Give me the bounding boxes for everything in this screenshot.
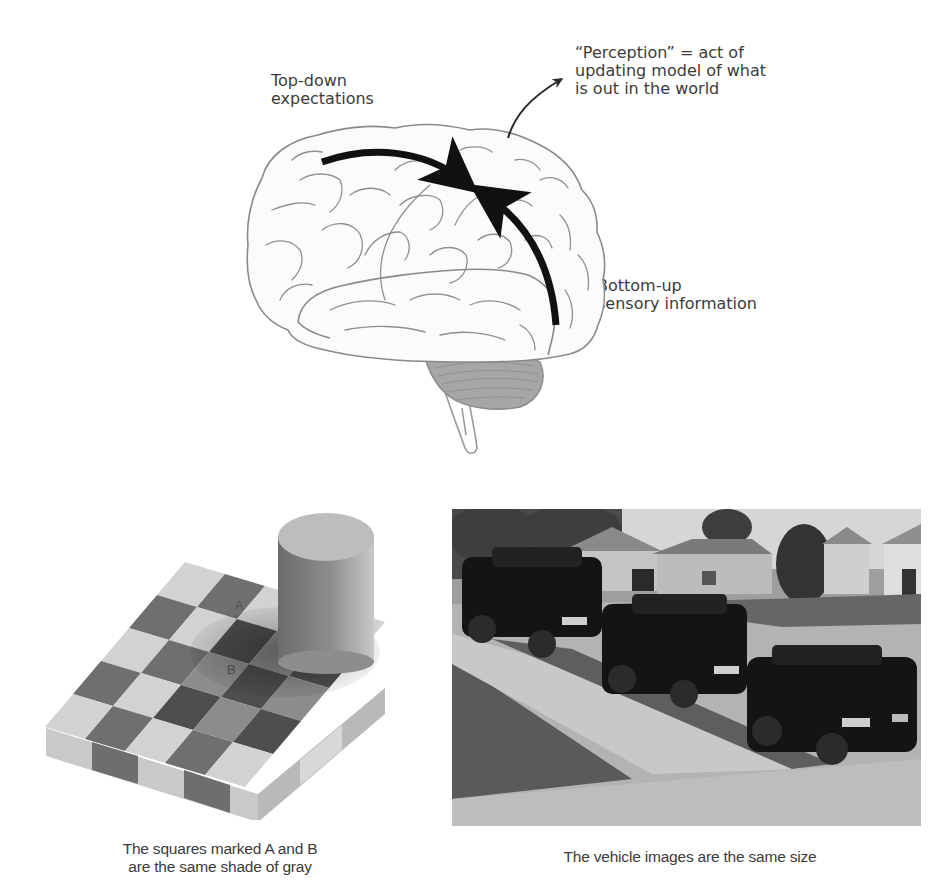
square-a-label: A — [235, 598, 244, 613]
vehicle-illusion-photo — [452, 509, 921, 826]
checkerboard-caption: The squares marked A and B are the same … — [70, 840, 370, 876]
perception-pointer-arrow-icon — [508, 80, 560, 138]
vehicle-near — [747, 645, 917, 765]
checkerboard-shadow-illustration: A B — [0, 500, 440, 820]
vehicles-street-photo — [452, 509, 921, 826]
vehicle-middle — [602, 594, 747, 708]
vehicles-caption: The vehicle images are the same size — [490, 848, 890, 866]
brain-illustration — [0, 0, 952, 480]
cylinder-icon — [278, 513, 374, 674]
vehicles-caption-text: The vehicle images are the same size — [490, 848, 890, 866]
checkerboard-caption-line2: are the same shade of gray — [70, 858, 370, 876]
checkerboard-caption-line1: The squares marked A and B — [70, 840, 370, 858]
checkerboard-illusion: A B — [0, 500, 440, 820]
